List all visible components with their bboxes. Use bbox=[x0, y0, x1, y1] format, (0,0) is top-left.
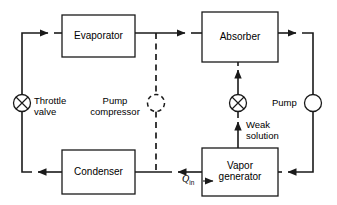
pump-compressor-symbol bbox=[148, 95, 165, 112]
pipe-pump-top-riser bbox=[302, 33, 313, 95]
pipe-throttle-to-evaporator bbox=[22, 33, 48, 95]
absorber-label: Absorber bbox=[202, 31, 278, 42]
pump-label: Pump bbox=[272, 97, 306, 108]
pump-symbol bbox=[305, 95, 322, 112]
throttle-valve-label: Throttle valve bbox=[34, 95, 88, 117]
weak-solution-label: Weak solution bbox=[246, 119, 302, 141]
heat-input-label: Qin bbox=[182, 173, 194, 186]
heat-input-subscript: in bbox=[189, 179, 194, 186]
evaporator-label: Evaporator bbox=[62, 30, 135, 41]
refrigeration-cycle-diagram: Evaporator Absorber Condenser Vapor gene… bbox=[0, 0, 337, 205]
pump-compressor-label: Pump compressor bbox=[84, 95, 146, 117]
condenser-label: Condenser bbox=[62, 166, 135, 177]
pipe-throttle-bottom-riser bbox=[22, 112, 32, 173]
vapor-generator-label: Vapor generator bbox=[202, 160, 278, 182]
